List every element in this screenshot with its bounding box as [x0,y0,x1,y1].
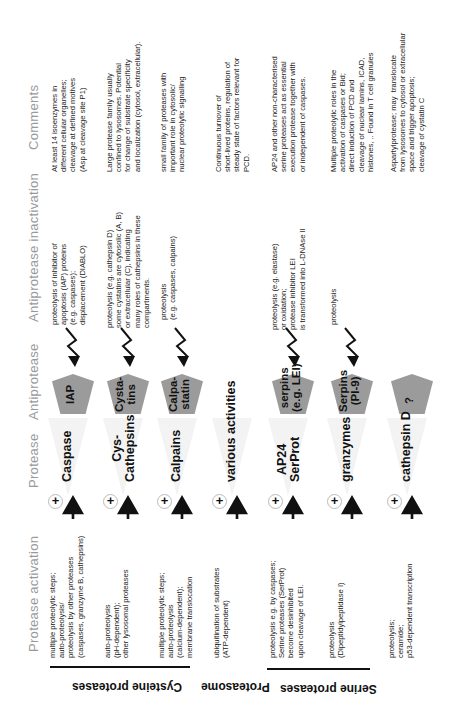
heading-antiprotease: Antiprotease [26,343,41,420]
protease-name: cathepsin D [400,411,413,482]
protease-arrow-icon [226,495,248,519]
comment-text: Continuous turnover of short-lived prote… [214,58,251,172]
group-label-serine: Serine proteases [280,682,377,696]
activation-plus-icon: + [327,494,342,509]
protease-name: Calpains [170,430,183,482]
lightning-bolt-icon [117,326,139,368]
group-label-proteasome: Proteasome [201,680,270,694]
comment-text: Aspartylprotease; may translocate from l… [389,33,426,172]
heading-comments: Comments [26,85,41,150]
antiprotease-label: Serpins (PI-9) [337,370,361,412]
activation-text: multiple proteolytic steps; auto-proteol… [48,536,85,658]
activation-text: auto-proteolysis (pH-dependent); other l… [103,569,131,658]
comment-text: At least 14 isoenzymes in different cell… [50,78,87,172]
heading-protease-activation: Protease activation [26,536,41,652]
activation-plus-icon: + [48,494,63,509]
activation-plus-icon: + [212,494,227,509]
activation-plus-icon: + [157,494,172,509]
protease-arrow-icon [171,495,193,519]
activation-plus-icon: + [268,494,283,509]
protease-arrow-icon [401,495,423,519]
inactivation-text: proteolysis (e.g. caspases, calpains) [159,236,177,320]
protease-name: AP24 SerProt [276,437,302,482]
protease-arrow-icon [62,495,84,519]
activation-text: ubiquitination of substrates (ATP-depend… [212,568,230,658]
comment-text: AP24 and other non-characterised serine … [270,56,307,172]
activation-plus-icon: + [103,494,118,509]
antiprotease-label: Cysta- tins [113,377,137,412]
comment-text: Multiple proteolytic roles in the activa… [329,52,375,172]
protease-name: Caspase [61,431,74,482]
group-bar-serine [267,668,370,670]
lightning-bolt-icon [282,326,304,368]
comment-text: small family of proteases with important… [159,73,187,172]
group-bar-cysteine [50,666,190,668]
inactivation-text: proteolysis (e.g. cathepsin D) some cyst… [105,212,151,328]
protease-arrow-icon [341,495,363,519]
protease-name: Cys- Cathepsins [111,415,137,482]
activation-text: proteolysis e.g. by caspases; Serine pro… [268,560,305,658]
antiprotease-label: Calpa- statin [167,377,191,412]
lightning-bolt-icon [341,326,363,368]
protease-name: granzymes [340,417,353,482]
activation-plus-icon: + [387,494,402,509]
antiprotease-pentagon-icon [391,374,433,414]
group-label-cysteine: Cysteine proteases [72,680,182,694]
activation-text: proteolysis; ceramide; p53-dependent tra… [387,563,415,658]
protease-arrow-icon [282,495,304,519]
heading-protease: Protease [26,434,41,488]
antiprotease-label: ? [403,397,415,404]
heading-antiprotease-inactivation: Antiprotease inactivation [26,173,41,322]
protease-arrow-icon [117,495,139,519]
inactivation-text: proteolysis of inhibitor of apoptosis (I… [50,243,87,325]
lightning-bolt-icon [62,326,84,368]
antiprotease-label: serpins (e.g. LEI) [278,363,302,412]
activation-text: multiple proteolytic steps; auto-proteol… [157,573,194,658]
lightning-bolt-icon [171,326,193,368]
antiprotease-label: IAP [64,385,76,404]
inactivation-text: proteolysis (e.g. elastase) or oxidation… [270,228,307,330]
activation-text: proteolysis (Dipeptidylpeptidase I) [327,582,345,658]
comment-text: Large protease family usually confined t… [105,42,142,172]
inactivation-text: proteolysis [329,289,338,325]
protease-name: various activities [225,381,238,482]
